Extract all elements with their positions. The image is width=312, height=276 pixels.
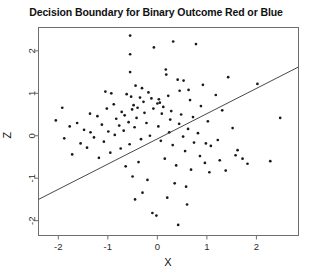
scatter-point	[103, 140, 106, 143]
scatter-point	[169, 118, 172, 121]
scatter-point	[171, 144, 174, 147]
scatter-point	[192, 116, 195, 119]
scatter-point	[197, 132, 200, 135]
scatter-point	[185, 185, 188, 188]
scatter-point	[200, 105, 203, 108]
scatter-point	[214, 94, 217, 97]
scatter-point	[178, 89, 181, 92]
scatter-point	[98, 156, 101, 159]
scatter-point	[155, 214, 158, 217]
scatter-point	[175, 164, 178, 167]
x-axis-tick-labels: -2-1012	[54, 241, 259, 252]
scatter-point	[122, 129, 125, 132]
scatter-point	[133, 126, 136, 129]
scatter-point	[141, 87, 144, 90]
scatter-point	[93, 136, 96, 139]
scatter-point	[180, 113, 183, 116]
y-axis-title: Z	[1, 131, 13, 138]
scatter-point	[187, 128, 190, 131]
scatter-point	[152, 107, 155, 110]
scatter-point	[157, 98, 160, 101]
scatter-point	[160, 112, 163, 115]
scatter-point	[153, 46, 156, 49]
scatter-point	[130, 95, 133, 98]
scatter-point	[189, 99, 192, 102]
scatter-point	[118, 124, 121, 127]
scatter-point	[167, 94, 170, 97]
scatter-point	[193, 141, 196, 144]
scatter-point	[205, 142, 208, 145]
scatter-point	[269, 160, 272, 163]
scatter-point	[129, 53, 132, 56]
scatter-point	[231, 127, 234, 130]
y-axis-tick-labels: -2-1012	[26, 48, 37, 225]
scatter-point	[241, 157, 244, 160]
scatter-point	[63, 137, 66, 140]
scatter-point	[164, 68, 167, 71]
scatter-plot-figure: Decision Boundary for Binary Outcome Red…	[0, 0, 312, 276]
scatter-point	[186, 203, 189, 206]
x-tick-label: 0	[155, 241, 160, 252]
scatter-point	[204, 162, 207, 165]
scatter-point	[89, 112, 92, 115]
scatter-point	[159, 139, 162, 142]
scatter-point	[96, 115, 99, 118]
scatter-point	[142, 100, 145, 103]
scatter-point	[182, 79, 185, 82]
scatter-point	[199, 155, 202, 158]
x-axis-title: X	[164, 256, 172, 268]
plot-canvas: -2-1012 -2-1012 X Z	[0, 0, 312, 276]
scatter-point	[177, 224, 180, 227]
scatter-point	[246, 162, 249, 165]
scatter-point	[149, 134, 152, 137]
scatter-point	[141, 191, 144, 194]
scatter-point	[208, 171, 211, 174]
scatter-point	[218, 159, 221, 162]
scatter-point	[145, 122, 148, 125]
scatter-point	[143, 111, 146, 114]
x-tick-label: -2	[54, 241, 62, 252]
scatter-point	[157, 125, 160, 128]
scatter-point	[173, 182, 176, 185]
scatter-point	[123, 114, 126, 117]
scatter-point	[195, 43, 198, 46]
scatter-point	[119, 147, 122, 150]
scatter-point	[147, 91, 150, 94]
scatter-point	[216, 139, 219, 142]
scatter-point	[134, 198, 137, 201]
decision-boundary-line	[39, 67, 299, 199]
scatter-point	[151, 212, 154, 215]
scatter-point	[158, 101, 161, 104]
scatter-point	[178, 123, 181, 126]
scatter-point-group	[54, 34, 281, 226]
scatter-point	[234, 154, 237, 157]
scatter-point	[236, 149, 239, 152]
scatter-point	[79, 142, 82, 145]
scatter-point	[162, 106, 165, 109]
scatter-point	[105, 107, 108, 110]
scatter-point	[125, 93, 128, 96]
scatter-point	[83, 128, 86, 131]
scatter-point	[170, 110, 173, 113]
scatter-point	[172, 40, 175, 43]
x-tick-label: -1	[104, 241, 112, 252]
scatter-point	[101, 123, 104, 126]
scatter-point	[89, 131, 92, 134]
scatter-point	[256, 83, 259, 86]
scatter-point	[128, 143, 131, 146]
scatter-point	[131, 175, 134, 178]
scatter-point	[182, 135, 185, 138]
x-tick-label: 2	[254, 241, 259, 252]
scatter-point	[127, 121, 130, 124]
scatter-point	[68, 125, 71, 128]
scatter-point	[176, 78, 179, 81]
scatter-point	[76, 122, 79, 125]
scatter-point	[184, 150, 187, 153]
scatter-point	[104, 90, 107, 93]
scatter-point	[61, 106, 64, 109]
scatter-point	[54, 119, 57, 122]
scatter-point	[109, 151, 112, 154]
scatter-point	[71, 153, 74, 156]
scatter-point	[139, 96, 142, 99]
scatter-point	[209, 145, 212, 148]
